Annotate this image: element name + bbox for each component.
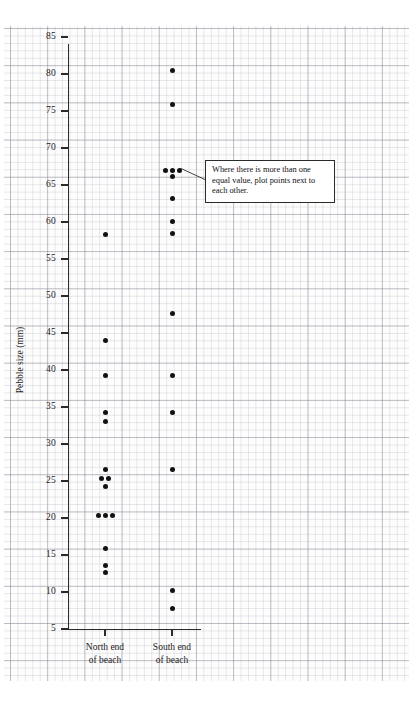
data-point <box>103 467 108 472</box>
x-axis-line <box>68 629 201 630</box>
data-point <box>170 196 175 201</box>
data-point <box>170 68 175 73</box>
y-tick-70 <box>61 147 68 148</box>
y-tick-label-55: 55 <box>30 253 56 265</box>
data-point <box>103 484 108 489</box>
data-point <box>103 419 108 424</box>
data-point <box>99 476 104 481</box>
y-tick-label-text: 45 <box>30 327 56 337</box>
y-tick-75 <box>61 110 68 111</box>
data-point <box>103 570 108 575</box>
x-category-label-line2: of beach <box>132 654 212 667</box>
data-point <box>170 231 175 236</box>
y-tick-65 <box>61 184 68 185</box>
y-tick-50 <box>61 295 68 296</box>
y-tick-label-text: 15 <box>30 549 56 559</box>
y-tick-85 <box>61 36 68 37</box>
y-tick-label-45: 45 <box>30 327 56 339</box>
x-tick-0 <box>104 629 105 636</box>
y-tick-label-text: 80 <box>30 68 56 78</box>
data-point <box>170 174 175 179</box>
y-tick-label-10: 10 <box>30 586 56 598</box>
y-axis-line <box>68 44 69 630</box>
data-point <box>103 232 108 237</box>
y-tick-35 <box>61 406 68 407</box>
data-point <box>170 311 175 316</box>
data-point <box>103 546 108 551</box>
x-tick-1 <box>171 629 172 636</box>
y-tick-15 <box>61 554 68 555</box>
y-tick-30 <box>61 443 68 444</box>
data-point <box>170 219 175 224</box>
data-point <box>103 563 108 568</box>
y-tick-label-70: 70 <box>30 142 56 154</box>
data-point <box>170 410 175 415</box>
data-point <box>103 410 108 415</box>
y-tick-25 <box>61 480 68 481</box>
data-point <box>163 168 168 173</box>
data-point <box>170 102 175 107</box>
y-tick-label-20: 20 <box>30 512 56 524</box>
callout-box: Where there is more than one equal value… <box>205 160 335 203</box>
x-category-label-1: South endof beach <box>132 641 212 666</box>
y-tick-label-80: 80 <box>30 68 56 80</box>
data-point <box>96 513 101 518</box>
y-tick-label-25: 25 <box>30 475 56 487</box>
y-tick-80 <box>61 73 68 74</box>
y-tick-5 <box>61 628 68 629</box>
y-tick-45 <box>61 332 68 333</box>
y-tick-60 <box>61 221 68 222</box>
y-axis-title: Pebble size (mm) <box>15 310 25 410</box>
data-point <box>170 168 175 173</box>
y-tick-label-text: 5 <box>30 623 56 633</box>
y-tick-label-text: 25 <box>30 475 56 485</box>
y-tick-label-text: 55 <box>30 253 56 263</box>
data-point <box>110 513 115 518</box>
data-point <box>170 588 175 593</box>
y-tick-label-5: 5 <box>30 623 56 635</box>
y-tick-label-40: 40 <box>30 364 56 376</box>
data-point <box>106 476 111 481</box>
data-point <box>103 513 108 518</box>
y-tick-label-50: 50 <box>30 290 56 302</box>
y-tick-label-text: 50 <box>30 290 56 300</box>
y-tick-label-text: 20 <box>30 512 56 522</box>
data-point <box>170 606 175 611</box>
y-tick-label-text: 85 <box>30 31 56 41</box>
y-tick-label-60: 60 <box>30 216 56 228</box>
y-tick-10 <box>61 591 68 592</box>
x-category-label-line1: South end <box>132 641 212 654</box>
callout-leader-line <box>180 168 207 181</box>
y-tick-55 <box>61 258 68 259</box>
y-tick-40 <box>61 369 68 370</box>
data-point <box>170 373 175 378</box>
y-tick-label-35: 35 <box>30 401 56 413</box>
y-tick-20 <box>61 517 68 518</box>
data-point <box>177 168 182 173</box>
y-tick-label-text: 65 <box>30 179 56 189</box>
data-point <box>170 467 175 472</box>
y-tick-label-text: 35 <box>30 401 56 411</box>
y-tick-label-85: 85 <box>30 31 56 43</box>
y-tick-label-65: 65 <box>30 179 56 191</box>
y-tick-label-75: 75 <box>30 105 56 117</box>
data-point <box>103 373 108 378</box>
y-tick-label-text: 75 <box>30 105 56 115</box>
y-tick-label-text: 30 <box>30 438 56 448</box>
y-tick-label-text: 10 <box>30 586 56 596</box>
y-tick-label-text: 70 <box>30 142 56 152</box>
chart-page: 510152025303540455055606570758085 North … <box>0 0 413 704</box>
data-point <box>103 338 108 343</box>
y-tick-label-text: 60 <box>30 216 56 226</box>
y-tick-label-30: 30 <box>30 438 56 450</box>
y-tick-label-15: 15 <box>30 549 56 561</box>
dot-plot: 510152025303540455055606570758085 North … <box>0 0 413 704</box>
y-tick-label-text: 40 <box>30 364 56 374</box>
